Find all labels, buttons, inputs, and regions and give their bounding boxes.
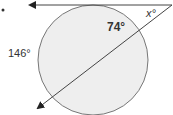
arc-146-label: 146° — [8, 48, 31, 59]
arc-74-label: 74° — [107, 21, 125, 33]
bullet-dot — [2, 9, 5, 12]
circle — [38, 5, 148, 115]
angle-x-label: x° — [146, 8, 156, 19]
